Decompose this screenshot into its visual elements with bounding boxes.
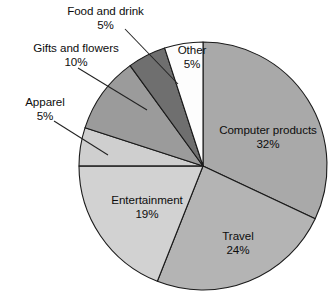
slice-label-travel: Travel 24% xyxy=(211,229,265,256)
slice-label-apparel-percent: 5% xyxy=(9,109,81,123)
slice-label-travel-percent: 24% xyxy=(211,243,265,257)
slice-label-entertainment-name: Entertainment xyxy=(111,193,183,206)
slice-label-gifts-and-flowers-name: Gifts and flowers xyxy=(33,41,119,54)
slice-label-entertainment-percent: 19% xyxy=(100,207,194,221)
slice-label-travel-name: Travel xyxy=(222,229,253,242)
slice-label-food-and-drink-name: Food and drink xyxy=(67,4,144,17)
slice-label-computer-products-name: Computer products xyxy=(219,123,317,136)
slice-label-apparel: Apparel 5% xyxy=(9,95,81,122)
slice-label-gifts-and-flowers: Gifts and flowers 10% xyxy=(6,41,146,68)
slice-label-food-and-drink-percent: 5% xyxy=(53,18,158,32)
slice-label-other: Other 5% xyxy=(166,43,218,70)
slice-label-other-name: Other xyxy=(178,43,207,56)
slice-label-apparel-name: Apparel xyxy=(25,95,65,108)
slice-label-food-and-drink: Food and drink 5% xyxy=(53,4,158,31)
pie-chart-figure: Food and drink 5% Gifts and flowers 10% … xyxy=(0,0,334,301)
slice-label-other-percent: 5% xyxy=(166,57,218,71)
slice-label-computer-products: Computer products 32% xyxy=(209,123,327,150)
slice-label-computer-products-percent: 32% xyxy=(209,137,327,151)
slice-label-gifts-and-flowers-percent: 10% xyxy=(6,55,146,69)
slice-label-entertainment: Entertainment 19% xyxy=(100,193,194,220)
